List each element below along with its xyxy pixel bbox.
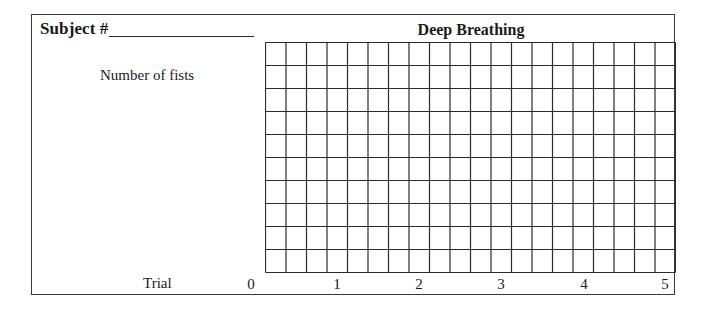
x-tick-2: 2 [415,276,423,293]
graph-grid[interactable] [265,42,675,272]
x-axis-label: Trial [143,275,172,292]
subject-number-field[interactable] [109,36,254,37]
x-tick-5: 5 [661,276,669,293]
x-tick-0: 0 [247,276,255,293]
subject-label: Subject # [40,19,108,39]
x-tick-4: 4 [580,276,588,293]
x-tick-3: 3 [497,276,505,293]
chart-title: Deep Breathing [266,21,676,39]
x-tick-1: 1 [333,276,341,293]
y-axis-label: Number of fists [100,67,194,84]
grid-lines [265,42,676,273]
